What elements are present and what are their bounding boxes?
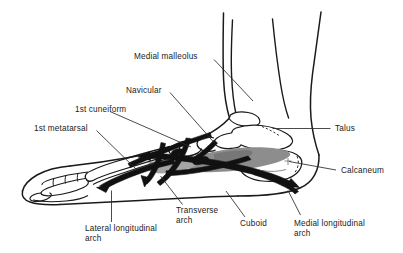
leader-navicular bbox=[170, 93, 215, 144]
toe-dorsal-contour bbox=[23, 166, 71, 191]
label-lateral-longitudinal-arch-line1: Lateral longitudinal bbox=[85, 224, 157, 233]
label-transverse-arch: Transversearch bbox=[176, 206, 218, 225]
posterior-leg-contour bbox=[310, 12, 321, 155]
label-first-metatarsal: 1st metatarsal bbox=[34, 124, 88, 134]
label-lateral-longitudinal-arch-line2: arch bbox=[85, 234, 102, 243]
label-transverse-arch-line2: arch bbox=[176, 216, 193, 225]
toe-joint-3 bbox=[77, 173, 78, 182]
toe-joint-2 bbox=[53, 178, 54, 186]
label-medial-longitudinal-arch: Medial longitudinalarch bbox=[294, 219, 365, 238]
toe-bone-outlines bbox=[30, 172, 88, 202]
label-first-cuneiform: 1st cuneiform bbox=[75, 105, 126, 115]
label-transverse-arch-line1: Transverse bbox=[176, 206, 218, 215]
label-talus: Talus bbox=[335, 124, 355, 134]
leader-medial-longitudinal-arch bbox=[288, 191, 301, 216]
label-medial-malleolus: Medial malleolus bbox=[134, 52, 198, 62]
label-medial-longitudinal-arch-line2: arch bbox=[294, 229, 311, 238]
label-medial-longitudinal-arch-line1: Medial longitudinal bbox=[294, 219, 365, 228]
tibia-medial-line bbox=[231, 20, 236, 114]
label-calcaneum: Calcaneum bbox=[341, 166, 384, 176]
lateral-arch-arrow-forefoot bbox=[97, 185, 111, 193]
label-cuboid: Cuboid bbox=[240, 219, 267, 229]
label-lateral-longitudinal-arch: Lateral longitudinalarch bbox=[85, 224, 157, 243]
fibula-line bbox=[273, 19, 289, 118]
label-navicular: Navicular bbox=[126, 86, 162, 96]
foot-anatomy-diagram: Medial malleolus Navicular 1st cuneiform… bbox=[0, 0, 403, 253]
tibia-anterior-line bbox=[223, 13, 229, 118]
leader-first-cuneiform bbox=[110, 112, 191, 148]
plantar-contour bbox=[60, 196, 238, 205]
medial-malleolus-bone bbox=[229, 112, 260, 126]
leader-transverse-arch bbox=[161, 176, 183, 205]
leader-first-metatarsal bbox=[97, 131, 139, 172]
leader-cuboid bbox=[226, 191, 245, 217]
